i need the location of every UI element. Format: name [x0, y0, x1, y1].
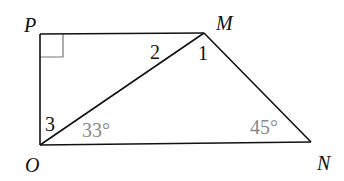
segment-OM — [40, 33, 204, 145]
vertex-label-N: N — [316, 152, 332, 174]
angle-label-N-45deg: 45° — [250, 116, 278, 138]
segment-PM — [40, 33, 204, 34]
right-angle-mark — [40, 34, 63, 57]
vertex-label-O: O — [25, 154, 39, 176]
angle-label-O-33deg: 33° — [82, 119, 110, 141]
angle-label-2: 2 — [150, 41, 160, 63]
vertex-label-M: M — [215, 12, 234, 34]
geometry-diagram: P M N O 2 1 3 33° 45° — [0, 0, 344, 181]
vertex-label-P: P — [23, 14, 36, 36]
angle-label-3: 3 — [45, 113, 55, 135]
angle-label-1: 1 — [198, 42, 208, 64]
segment-NO — [40, 142, 311, 145]
